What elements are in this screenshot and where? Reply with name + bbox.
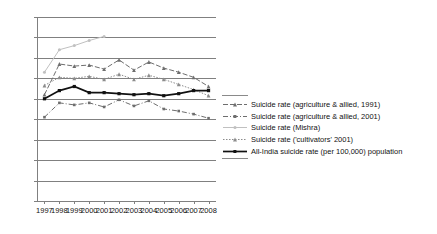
series-4 bbox=[43, 85, 210, 100]
data-point bbox=[162, 94, 165, 97]
legend-rule-bottom bbox=[222, 158, 248, 159]
legend-item[interactable]: Suicide rate (agriculture & allied, 2001… bbox=[222, 111, 434, 123]
data-point bbox=[207, 117, 210, 120]
series-line bbox=[44, 87, 208, 99]
legend-item[interactable]: Suicide rate (agriculture & allied, 1991… bbox=[222, 99, 434, 111]
legend-label: Suicide rate (Mishra) bbox=[251, 123, 320, 132]
x-tick-mark bbox=[149, 201, 150, 204]
data-point bbox=[207, 89, 210, 92]
data-point bbox=[58, 89, 61, 92]
data-point bbox=[43, 84, 47, 88]
data-point bbox=[147, 60, 151, 64]
data-point bbox=[43, 93, 47, 97]
x-tick-mark bbox=[164, 201, 165, 204]
data-point bbox=[162, 108, 165, 111]
x-tick-label: 2008 bbox=[200, 207, 217, 215]
data-point bbox=[133, 105, 136, 108]
data-point bbox=[58, 102, 61, 105]
data-point bbox=[117, 58, 121, 62]
data-point bbox=[207, 85, 211, 89]
data-point bbox=[43, 71, 46, 74]
legend-swatch-icon bbox=[222, 99, 248, 110]
data-point bbox=[88, 91, 91, 94]
data-point bbox=[73, 44, 76, 47]
data-point bbox=[132, 93, 135, 96]
data-point bbox=[117, 92, 120, 95]
legend-swatch-icon bbox=[222, 122, 248, 133]
x-tick-mark bbox=[89, 201, 90, 204]
data-point bbox=[103, 106, 106, 109]
data-point bbox=[103, 35, 106, 38]
x-tick-mark bbox=[119, 201, 120, 204]
data-point bbox=[58, 48, 61, 51]
x-tick-mark bbox=[134, 201, 135, 204]
data-point bbox=[43, 97, 46, 100]
data-point bbox=[73, 104, 76, 107]
legend-label: Suicide rate (agriculture & allied, 2001… bbox=[251, 112, 380, 121]
data-point bbox=[192, 113, 195, 116]
x-tick-mark bbox=[59, 201, 60, 204]
series-line bbox=[44, 100, 208, 118]
data-point bbox=[192, 89, 195, 92]
series-1 bbox=[43, 99, 210, 120]
data-point bbox=[88, 102, 91, 105]
y-tick-mark bbox=[34, 201, 37, 202]
x-axis-line bbox=[37, 201, 216, 202]
data-point bbox=[177, 92, 180, 95]
x-tick-mark bbox=[179, 201, 180, 204]
legend-item[interactable]: All-India suicide rate (per 100,000) pop… bbox=[222, 145, 434, 157]
legend-label: All-India suicide rate (per 100,000) pop… bbox=[251, 147, 402, 156]
series-0 bbox=[43, 58, 211, 97]
x-tick-mark bbox=[209, 201, 210, 204]
data-point bbox=[43, 116, 46, 119]
legend-item[interactable]: Suicide rate ('cultivators' 2001) bbox=[222, 134, 434, 146]
legend-label: Suicide rate ('cultivators' 2001) bbox=[251, 135, 353, 144]
x-tick-mark bbox=[74, 201, 75, 204]
data-point bbox=[177, 110, 180, 113]
legend-item[interactable]: Suicide rate (Mishra) bbox=[222, 122, 434, 134]
data-point bbox=[132, 77, 136, 81]
series-line bbox=[44, 60, 208, 95]
legend-swatch-icon bbox=[222, 111, 248, 122]
data-point bbox=[207, 94, 211, 98]
legend-swatch-icon bbox=[222, 146, 248, 157]
x-tick-mark bbox=[104, 201, 105, 204]
legend-label: Suicide rate (agriculture & allied, 1991… bbox=[251, 100, 380, 109]
chart-container: 0.02.04.06.08.010.012.014.016.018.0 1997… bbox=[0, 0, 437, 234]
data-point bbox=[147, 73, 151, 77]
data-point bbox=[118, 99, 121, 102]
legend-rule-top bbox=[222, 95, 248, 96]
data-point bbox=[148, 100, 151, 103]
data-point bbox=[73, 85, 76, 88]
legend-swatch-icon bbox=[222, 134, 248, 145]
plot-area: 0.02.04.06.08.010.012.014.016.018.0 1997… bbox=[37, 17, 216, 201]
legend: Suicide rate (agriculture & allied, 1991… bbox=[222, 99, 434, 157]
x-tick-mark bbox=[194, 201, 195, 204]
series-lines bbox=[37, 17, 216, 201]
data-point bbox=[88, 39, 91, 42]
data-point bbox=[103, 91, 106, 94]
x-tick-mark bbox=[44, 201, 45, 204]
data-point bbox=[147, 92, 150, 95]
